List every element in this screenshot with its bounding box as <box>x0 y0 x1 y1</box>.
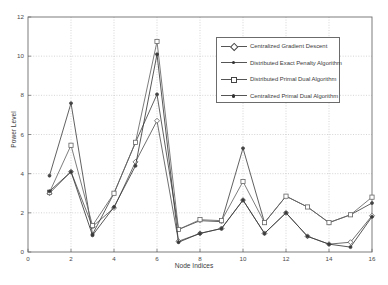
data-point-marker <box>348 213 352 217</box>
diamond-marker-icon <box>229 43 238 52</box>
data-point-marker <box>263 232 266 235</box>
data-point-marker <box>155 118 160 123</box>
data-point-marker <box>242 199 245 202</box>
legend-label: Distributed Exact Penalty Algorithm <box>250 60 342 66</box>
data-point-marker <box>241 179 245 183</box>
series-line <box>50 121 373 244</box>
y-tick-label: 12 <box>6 13 24 20</box>
data-point-marker <box>220 227 223 230</box>
y-tick-label: 2 <box>6 209 24 216</box>
y-axis-label: Power Level <box>10 100 17 160</box>
legend-label: Centralized Gradient Descent <box>250 43 327 49</box>
legend-swatch <box>221 91 247 101</box>
y-tick-label: 6 <box>6 131 24 138</box>
y-tick-label: 4 <box>6 170 24 177</box>
x-tick-label: 10 <box>234 255 252 262</box>
series-line <box>50 94 373 234</box>
data-point-marker <box>242 147 245 150</box>
data-point-marker <box>113 205 116 208</box>
data-point-marker <box>70 102 73 105</box>
x-tick-label: 8 <box>191 255 209 262</box>
data-point-marker <box>371 215 374 218</box>
x-tick-label: 0 <box>19 255 37 262</box>
x-axis-label: Node Indices <box>0 262 388 269</box>
legend-item[interactable]: Distributed Exact Penalty Algorithm <box>217 55 339 72</box>
data-point-marker <box>371 202 374 205</box>
chart-legend: Centralized Gradient Descent Distributed… <box>216 37 340 103</box>
legend-item[interactable]: Distributed Primal Dual Algorithm <box>217 71 339 88</box>
x-tick-label: 16 <box>363 255 381 262</box>
legend-swatch <box>221 58 247 68</box>
data-point-marker <box>306 235 309 238</box>
square-marker-icon <box>231 77 238 84</box>
data-point-marker <box>305 205 309 209</box>
y-tick-label: 10 <box>6 52 24 59</box>
legend-label: Centralized Primal Dual Algorithm <box>250 93 338 99</box>
legend-label: Distributed Primal Dual Algorithm <box>250 76 336 82</box>
star-marker-icon <box>232 94 236 98</box>
data-point-marker <box>134 164 137 167</box>
data-point-marker <box>156 93 159 96</box>
data-point-marker <box>370 195 374 199</box>
legend-swatch <box>221 74 247 84</box>
chart-figure: Power Level Node Indices Centralized Gra… <box>0 0 388 285</box>
x-tick-label: 12 <box>277 255 295 262</box>
x-tick-label: 14 <box>320 255 338 262</box>
data-point-marker <box>91 234 94 237</box>
data-point-marker <box>199 232 202 235</box>
dot-marker-icon <box>232 61 235 64</box>
legend-item[interactable]: Centralized Gradient Descent <box>217 38 339 55</box>
x-tick-label: 2 <box>62 255 80 262</box>
y-tick-label: 8 <box>6 91 24 98</box>
data-point-marker <box>155 39 159 43</box>
data-point-marker <box>285 211 288 214</box>
x-tick-label: 4 <box>105 255 123 262</box>
data-point-marker <box>90 223 94 227</box>
data-point-marker <box>262 221 266 225</box>
y-tick-label: 0 <box>6 248 24 255</box>
data-point-marker <box>327 221 331 225</box>
data-point-marker <box>328 243 331 246</box>
data-point-marker <box>48 190 51 193</box>
data-point-marker <box>177 241 180 244</box>
data-point-marker <box>156 53 159 56</box>
x-tick-label: 6 <box>148 255 166 262</box>
data-point-marker <box>284 194 288 198</box>
data-point-marker <box>112 191 116 195</box>
data-point-marker <box>69 143 73 147</box>
data-point-marker <box>48 174 51 177</box>
data-point-marker <box>219 219 223 223</box>
legend-item[interactable]: Centralized Primal Dual Algorithm <box>217 88 339 105</box>
data-point-marker <box>133 140 137 144</box>
data-point-marker <box>70 170 73 173</box>
data-point-marker <box>198 218 202 222</box>
legend-swatch <box>221 41 247 51</box>
data-point-marker <box>349 246 352 249</box>
